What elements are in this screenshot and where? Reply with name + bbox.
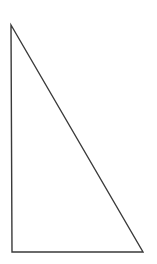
diagram-canvas [0, 0, 157, 264]
right-triangle-shape [11, 25, 143, 252]
triangle-diagram [0, 0, 157, 264]
